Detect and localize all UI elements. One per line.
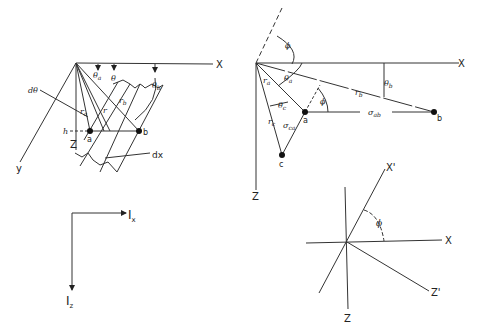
label-theta-b2: θb xyxy=(384,79,393,89)
label-theta-a: θa xyxy=(93,71,102,81)
label-point-a: a xyxy=(87,135,92,144)
panel4-labels: X Z X' Z' ϕ xyxy=(344,162,452,324)
label-point-a2: a xyxy=(303,116,308,125)
label-point-b: b xyxy=(143,128,148,137)
panel-line-source-geometry xyxy=(20,63,213,172)
ray-ra xyxy=(76,63,90,131)
label-ix: Ix xyxy=(128,208,136,224)
label-z2: Z xyxy=(252,191,259,202)
label-iz: Iz xyxy=(66,294,74,310)
label-theta: θ xyxy=(111,74,116,83)
z-axis-4 xyxy=(345,187,348,309)
label-zp: Z' xyxy=(431,287,441,298)
panel-multi-source-geometry xyxy=(256,8,459,190)
label-sigma-ca: σca xyxy=(283,121,296,131)
rotated-axis-dashed xyxy=(256,8,282,63)
label-phi-top: ϕ xyxy=(285,41,291,50)
xp-axis xyxy=(319,169,385,293)
panel2-labels: X Z ϕ ϕ ra rb rc θa θb θc σab σca a b c xyxy=(252,41,465,202)
label-sigma-ab: σab xyxy=(368,108,381,118)
phi-a-dashed xyxy=(305,85,320,112)
x-axis xyxy=(76,63,213,64)
label-rb2: rb xyxy=(355,88,363,98)
sigma-ca-line xyxy=(282,112,305,155)
label-z4: Z xyxy=(344,313,351,324)
point-a2-marker xyxy=(302,109,308,115)
panel3-labels: Ix Iz xyxy=(66,208,136,310)
label-phi4: ϕ xyxy=(376,218,382,228)
label-x: X xyxy=(216,59,223,70)
diagram-canvas: X y Z θa θ θb dθ ra r rb h a b dx X Z xyxy=(0,0,481,332)
label-z: Z xyxy=(70,139,77,150)
label-theta-b: θb xyxy=(152,81,161,91)
slab-top-wave xyxy=(140,84,145,88)
label-ra2: ra xyxy=(263,76,271,86)
panel-rotated-axes xyxy=(306,169,442,309)
panel-moment-axes xyxy=(72,213,126,290)
point-b-marker xyxy=(136,128,142,134)
label-xp: X' xyxy=(386,162,396,173)
label-phi-a: ϕ xyxy=(320,97,326,106)
label-r: r xyxy=(103,106,108,115)
zp-axis xyxy=(347,242,429,291)
y-axis xyxy=(20,63,76,162)
label-point-c2: c xyxy=(279,160,283,169)
label-rb: rb xyxy=(119,96,127,106)
label-dx: dx xyxy=(152,150,164,160)
x-axis-4 xyxy=(306,240,442,243)
label-ra: ra xyxy=(80,107,88,117)
label-x4: X xyxy=(445,235,452,246)
point-a-marker xyxy=(87,128,93,134)
point-c2-marker xyxy=(279,152,285,158)
label-point-b2: b xyxy=(437,114,442,123)
label-x2: X xyxy=(458,58,465,69)
dx-leader xyxy=(105,153,150,158)
label-h: h xyxy=(63,127,68,136)
label-y: y xyxy=(16,163,22,174)
label-dtheta: dθ xyxy=(28,86,38,95)
